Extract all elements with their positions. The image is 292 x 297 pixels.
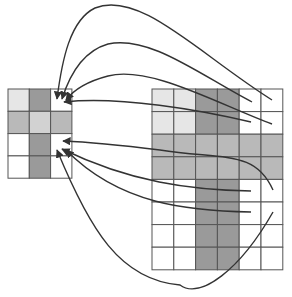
large-grid-cell-5-2 bbox=[196, 202, 218, 225]
large-grid-cell-5-3 bbox=[217, 202, 239, 225]
diagram-canvas bbox=[0, 0, 292, 297]
large-grid-cell-2-3 bbox=[217, 134, 239, 157]
large-grid-cell-6-5 bbox=[261, 225, 283, 248]
large-grid-cell-5-4 bbox=[239, 202, 261, 225]
large-grid-cell-4-1 bbox=[174, 179, 196, 202]
large-grid-cell-6-3 bbox=[217, 225, 239, 248]
large-grid-cell-3-0 bbox=[152, 157, 174, 180]
small-grid-cell-2-0 bbox=[8, 134, 29, 156]
large-grid-cell-4-5 bbox=[261, 179, 283, 202]
small-grid-cell-3-0 bbox=[8, 156, 29, 178]
large-grid-cell-1-0 bbox=[152, 112, 174, 135]
large-grid-cell-1-1 bbox=[174, 112, 196, 135]
small-grid-cell-0-2 bbox=[51, 89, 72, 111]
large-grid-cell-6-1 bbox=[174, 225, 196, 248]
large-grid-cell-0-0 bbox=[152, 89, 174, 112]
large-grid-cell-7-0 bbox=[152, 247, 174, 270]
large-grid-cell-7-1 bbox=[174, 247, 196, 270]
diagram-svg bbox=[0, 0, 292, 297]
large-grid-cell-0-5 bbox=[261, 89, 283, 112]
large-grid-cell-6-2 bbox=[196, 225, 218, 248]
large-grid-cell-3-3 bbox=[217, 157, 239, 180]
large-grid-cell-0-3 bbox=[217, 89, 239, 112]
large-grid-cell-6-0 bbox=[152, 225, 174, 248]
large-grid-cell-7-5 bbox=[261, 247, 283, 270]
large-grid-cell-5-0 bbox=[152, 202, 174, 225]
small-grid-cell-1-2 bbox=[51, 111, 72, 133]
large-grid-cell-2-5 bbox=[261, 134, 283, 157]
large-grid-cell-3-4 bbox=[239, 157, 261, 180]
large-grid-cell-7-2 bbox=[196, 247, 218, 270]
small-grid-cell-3-1 bbox=[29, 156, 50, 178]
small-grid-cell-2-1 bbox=[29, 134, 50, 156]
large-grid-cell-4-2 bbox=[196, 179, 218, 202]
arrow-top-1 bbox=[57, 5, 272, 100]
large-grid-cell-7-3 bbox=[217, 247, 239, 270]
small-grid-cell-0-1 bbox=[29, 89, 50, 111]
small-grid-cell-0-0 bbox=[8, 89, 29, 111]
large-grid-cell-3-2 bbox=[196, 157, 218, 180]
small-grid-cell-1-0 bbox=[8, 111, 29, 133]
small-grid-cell-1-1 bbox=[29, 111, 50, 133]
large-grid-cell-1-2 bbox=[196, 112, 218, 135]
large-grid-cell-2-0 bbox=[152, 134, 174, 157]
small-grid bbox=[8, 89, 72, 178]
large-grid bbox=[152, 89, 283, 270]
large-grid-cell-2-4 bbox=[239, 134, 261, 157]
large-grid-cell-7-4 bbox=[239, 247, 261, 270]
large-grid-cell-1-5 bbox=[261, 112, 283, 135]
large-grid-cell-2-2 bbox=[196, 134, 218, 157]
large-grid-cell-3-1 bbox=[174, 157, 196, 180]
